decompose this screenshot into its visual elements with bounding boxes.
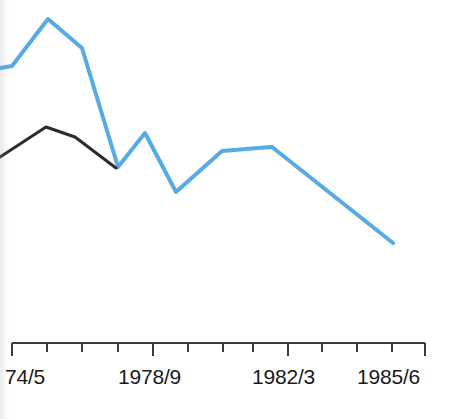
x-axis — [12, 343, 425, 356]
chart-plot-area — [0, 0, 461, 419]
x-tick-label-2: 1982/3 — [252, 366, 315, 387]
x-tick-label-0: 74/5 — [5, 366, 45, 387]
x-tick-label-3: 1985/6 — [357, 366, 420, 387]
series-layer — [0, 19, 393, 243]
x-tick-label-1: 1978/9 — [118, 366, 181, 387]
line-chart: 74/5 1978/9 1982/3 1985/6 — [0, 0, 461, 419]
series-black — [0, 127, 116, 168]
